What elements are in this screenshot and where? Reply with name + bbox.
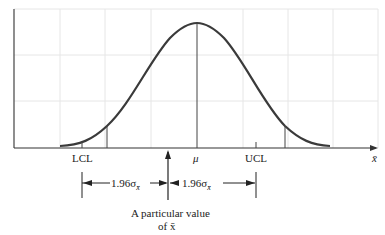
caption-line2: of x̄ bbox=[158, 220, 175, 232]
x-axis-label: x̄ bbox=[372, 152, 377, 164]
right-width-label: 1.96σx̄ bbox=[182, 177, 211, 194]
ucl-label: UCL bbox=[245, 152, 267, 164]
grid bbox=[14, 9, 378, 148]
left-width-label: 1.96σx̄ bbox=[111, 177, 140, 194]
caption-line1: A particular value bbox=[131, 207, 210, 219]
normal-curve-diagram bbox=[0, 0, 385, 235]
mu-label: μ bbox=[193, 152, 199, 164]
lcl-label: LCL bbox=[72, 152, 93, 164]
normal-curve bbox=[60, 23, 330, 146]
x-axis-arrow bbox=[370, 145, 378, 151]
